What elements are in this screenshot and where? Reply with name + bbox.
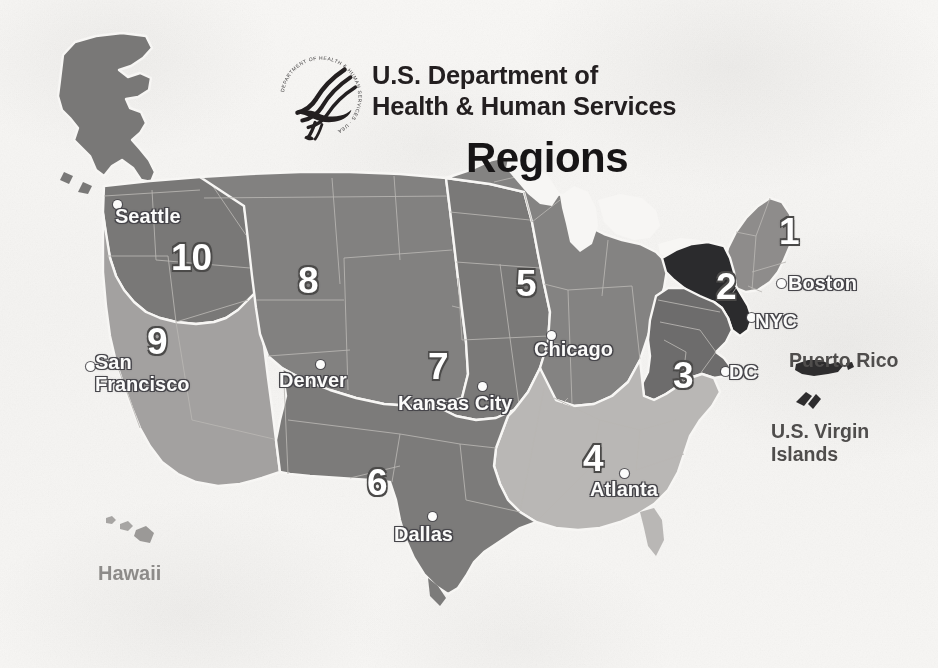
alaska-shape-icon: [58, 33, 155, 194]
us-virgin-islands-icon: [796, 392, 821, 409]
puerto-rico-island-icon: [795, 360, 854, 376]
us-map: [0, 0, 938, 668]
hhs-regions-map-figure: DEPARTMENT OF HEALTH & HUMAN SERVICES · …: [0, 0, 938, 668]
hawaii-islands-icon: [106, 516, 154, 543]
